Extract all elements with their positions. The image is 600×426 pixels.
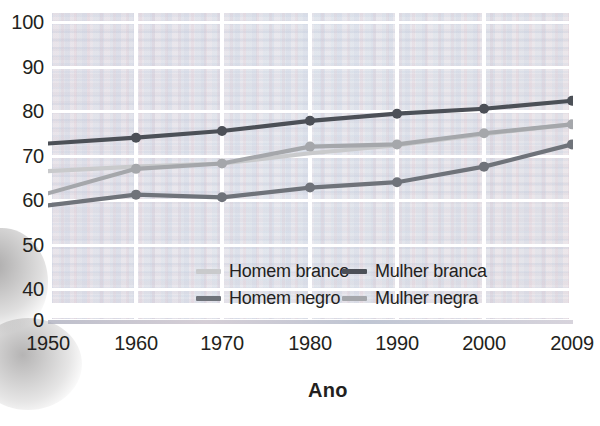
y-tick-label-50: 50 xyxy=(0,235,44,255)
legend-item-mulher-negra[interactable]: Mulher negra xyxy=(342,289,526,308)
x-tick-label-1990: 1990 xyxy=(359,332,435,354)
data-point-homem-negro-1970 xyxy=(217,192,227,202)
legend-swatch-icon xyxy=(196,269,221,274)
y-tick-label-40: 40 xyxy=(0,279,44,299)
data-point-mulher-negra-1990 xyxy=(392,139,402,149)
data-point-homem-negro-1960 xyxy=(131,190,141,200)
x-axis-title: Ano xyxy=(0,379,600,402)
legend-swatch-icon xyxy=(342,296,367,301)
legend-label: Mulher negra xyxy=(375,289,478,308)
x-tick-label-2009: 2009 xyxy=(534,332,600,354)
x-tick-label-1970: 1970 xyxy=(184,332,260,354)
y-axis-tick-labels: 1009080706050400 xyxy=(0,0,44,426)
data-point-mulher-negra-1970 xyxy=(217,159,227,169)
data-point-homem-negro-1990 xyxy=(392,177,402,187)
x-tick-label-1960: 1960 xyxy=(98,332,174,354)
chart-legend: Homem brancoMulher brancaHomem negroMulh… xyxy=(196,258,526,312)
x-tick-label-1950: 1950 xyxy=(10,332,86,354)
y-tick-label-80: 80 xyxy=(0,101,44,121)
legend-label: Mulher branca xyxy=(375,262,487,281)
legend-item-mulher-branca[interactable]: Mulher branca xyxy=(342,262,526,281)
data-point-mulher-negra-1980 xyxy=(305,142,315,152)
line-chart-figure: 1009080706050400 19501960197019801990200… xyxy=(0,0,600,426)
legend-label: Homem branco xyxy=(229,262,349,281)
x-tick-label-1980: 1980 xyxy=(272,332,348,354)
y-tick-label-0: 0 xyxy=(0,310,44,330)
x-axis-line xyxy=(48,320,573,324)
data-point-mulher-branca-1970 xyxy=(217,126,227,136)
data-point-mulher-negra-2000 xyxy=(479,128,489,138)
data-point-homem-negro-2009 xyxy=(567,139,573,149)
y-tick-label-70: 70 xyxy=(0,146,44,166)
data-point-homem-negro-2000 xyxy=(479,162,489,172)
legend-swatch-icon xyxy=(196,296,221,301)
legend-label: Homem negro xyxy=(229,289,340,308)
legend-item-homem-negro[interactable]: Homem negro xyxy=(196,289,316,308)
x-tick-label-2000: 2000 xyxy=(446,332,522,354)
legend-swatch-icon xyxy=(342,269,367,274)
data-point-mulher-branca-1980 xyxy=(305,116,315,126)
data-point-mulher-negra-1960 xyxy=(131,164,141,174)
data-point-mulher-branca-2009 xyxy=(567,96,573,106)
data-point-mulher-branca-1990 xyxy=(392,109,402,119)
y-tick-label-60: 60 xyxy=(0,190,44,210)
data-point-homem-negro-1980 xyxy=(305,183,315,193)
data-point-mulher-branca-2000 xyxy=(479,104,489,114)
data-point-mulher-negra-2009 xyxy=(567,119,573,129)
legend-item-homem-branco[interactable]: Homem branco xyxy=(196,262,316,281)
data-point-mulher-branca-1960 xyxy=(131,133,141,143)
y-tick-label-100: 100 xyxy=(0,12,44,32)
y-tick-label-90: 90 xyxy=(0,57,44,77)
